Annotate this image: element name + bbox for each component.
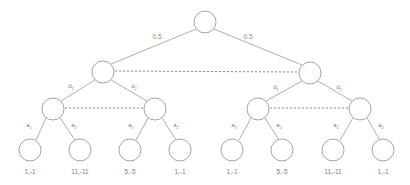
edge-nright-to-nr2 (318, 81, 352, 101)
node-root[interactable] (194, 11, 216, 33)
payoff-label-1: 1,-1 (24, 168, 36, 175)
edge-label-d-left-2: d2 (131, 83, 137, 91)
edge-nright-to-nr1 (266, 81, 302, 101)
payoff-label-4: 1,-1 (174, 168, 186, 175)
tree-svg-canvas: 0.5 0.5 d1 d2 d1 d2 a1 a2 (0, 0, 410, 185)
action-edges-group (36, 118, 380, 140)
payoff-labels-group: 1,-1 11,-11 5,-5 1,-1 1,-1 5,-5 11,-11 1… (24, 168, 389, 175)
decision-edge-labels: d1 d2 d1 d2 (68, 83, 342, 92)
leaf-node-7[interactable] (322, 139, 344, 161)
edge-nl1-to-leaf1 (36, 118, 46, 140)
infoset-line-top (115, 71, 298, 72)
node-level2-left[interactable] (92, 61, 114, 83)
edge-label-a-3: a1 (128, 122, 134, 130)
leaf-node-2[interactable] (69, 139, 91, 161)
payoff-label-5: 1,-1 (226, 168, 238, 175)
edge-label-d-right-1: d1 (273, 84, 279, 92)
chance-prob-label-right: 0.5 (243, 33, 252, 40)
leaf-node-8[interactable] (372, 139, 394, 161)
payoff-label-7: 11,-11 (324, 168, 342, 175)
node-level2-right[interactable] (299, 62, 321, 84)
leaf-node-4[interactable] (169, 139, 191, 161)
node-level3-1[interactable] (42, 98, 64, 120)
edge-label-a-5: a1 (231, 122, 237, 130)
edge-label-d-left-1: d1 (68, 83, 74, 91)
chance-prob-label-left: 0.5 (152, 33, 161, 40)
edge-label-a-1: a1 (26, 122, 32, 130)
edge-nl2-to-leaf3 (136, 118, 148, 140)
payoff-label-8: 1,-1 (377, 168, 389, 175)
edge-nr1-to-leaf5 (239, 118, 251, 140)
edge-label-a-8: a2 (378, 122, 384, 130)
leaf-node-5[interactable] (221, 139, 243, 161)
node-level3-2[interactable] (144, 98, 166, 120)
payoff-label-3: 5,-5 (124, 168, 136, 175)
leaf-node-6[interactable] (271, 139, 293, 161)
action-edge-labels: a1 a2 a1 a2 a1 a2 a1 a2 (26, 122, 384, 130)
edge-nr2-to-leaf7 (340, 118, 353, 140)
game-tree-diagram: 0.5 0.5 d1 d2 d1 d2 a1 a2 (0, 0, 410, 185)
edge-label-a-4: a2 (173, 122, 179, 130)
node-level3-4[interactable] (349, 98, 371, 120)
edge-root-to-right (214, 29, 302, 65)
node-level3-3[interactable] (247, 98, 269, 120)
payoff-label-2: 11,-11 (71, 168, 89, 175)
edge-label-a-6: a2 (276, 122, 282, 130)
payoff-label-6: 5,-5 (276, 168, 288, 175)
edge-label-d-right-2: d2 (336, 84, 342, 92)
edge-nleft-to-nl1 (61, 80, 95, 101)
edge-label-a-2: a2 (71, 122, 77, 130)
leaf-node-3[interactable] (119, 139, 141, 161)
leaf-node-1[interactable] (19, 139, 41, 161)
chance-edges-group (111, 29, 302, 65)
edge-label-a-7: a1 (333, 122, 339, 130)
edge-nleft-to-nl2 (111, 80, 147, 101)
